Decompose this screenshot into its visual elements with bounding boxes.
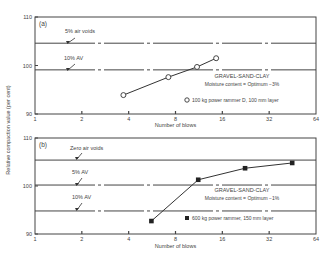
x-tick-label: 2 xyxy=(80,236,83,242)
filled-square-marker-icon xyxy=(196,177,201,182)
annotation-subtitle: Moisture content = Optimum −3% xyxy=(205,81,280,87)
panel-label: (b) xyxy=(39,141,47,149)
legend-circle-icon xyxy=(185,98,189,102)
compaction-charts: (a)124816326490100110Number of blows5% a… xyxy=(0,0,331,261)
open-circle-marker-icon xyxy=(121,93,126,98)
x-tick-label: 4 xyxy=(127,236,130,242)
y-tick-label: 90 xyxy=(26,231,32,237)
x-tick-label: 32 xyxy=(266,236,272,242)
x-axis-label: Number of blows xyxy=(155,122,197,128)
x-tick-label: 8 xyxy=(174,236,177,242)
x-tick-label: 16 xyxy=(219,116,225,122)
annotation-title: GRAVEL-SAND-CLAY xyxy=(215,73,270,79)
chart-panel-b: (b)124816326490100110Number of blowsZero… xyxy=(23,135,319,249)
open-circle-marker-icon xyxy=(214,56,219,61)
reference-line-label: 10% AV xyxy=(72,194,91,200)
legend-label: 100 kg power rammer D, 100 mm layer xyxy=(192,97,279,103)
x-tick-label: 64 xyxy=(313,116,319,122)
plot-frame xyxy=(35,138,316,234)
y-tick-label: 100 xyxy=(23,63,32,69)
x-tick-label: 1 xyxy=(33,116,36,122)
x-tick-label: 2 xyxy=(80,116,83,122)
filled-square-marker-icon xyxy=(149,219,154,224)
x-tick-label: 64 xyxy=(313,236,319,242)
y-tick-label: 110 xyxy=(23,135,32,141)
annotation-subtitle: Moisture content = Optimum −1% xyxy=(205,195,280,201)
reference-line-label: 5% AV xyxy=(72,169,88,175)
open-circle-marker-icon xyxy=(195,64,200,69)
filled-square-marker-icon xyxy=(290,161,295,166)
legend-square-icon xyxy=(185,216,189,220)
x-tick-label: 1 xyxy=(33,236,36,242)
annotation-title: GRAVEL-SAND-CLAY xyxy=(215,187,270,193)
y-axis-label: Relative compaction value (per cent) xyxy=(5,85,11,174)
x-tick-label: 16 xyxy=(219,236,225,242)
reference-line-label: 5% air voids xyxy=(65,28,95,34)
reference-line-label: 10% AV xyxy=(64,55,83,61)
open-circle-marker-icon xyxy=(166,75,171,80)
legend-label: 600 kg power rammer, 150 mm layer xyxy=(192,215,274,221)
panel-label: (a) xyxy=(39,20,47,28)
filled-square-marker-icon xyxy=(243,166,248,171)
y-tick-label: 100 xyxy=(23,183,32,189)
x-tick-label: 32 xyxy=(266,116,272,122)
y-tick-label: 90 xyxy=(26,111,32,117)
y-tick-label: 110 xyxy=(23,14,32,20)
x-tick-label: 4 xyxy=(127,116,130,122)
x-axis-label: Number of blows xyxy=(155,243,197,249)
reference-line-label: Zero air voids xyxy=(70,145,104,151)
chart-panel-a: (a)124816326490100110Number of blows5% a… xyxy=(23,14,319,128)
arrow-icon xyxy=(68,38,75,43)
